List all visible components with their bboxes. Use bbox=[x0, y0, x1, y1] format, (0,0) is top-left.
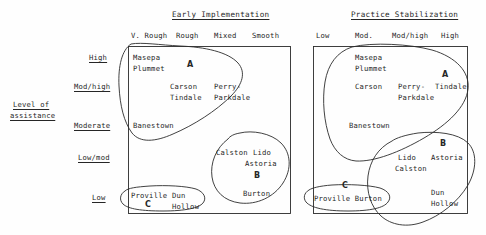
right-column-high: High bbox=[441, 31, 459, 40]
right-item-masepa: Masepa bbox=[355, 53, 382, 62]
right-item-dun: Dun bbox=[431, 188, 445, 197]
right-column-mod: Mod. bbox=[355, 31, 373, 40]
right-cluster-a-letter: A bbox=[442, 70, 448, 79]
y-axis-label-line1: Level of bbox=[13, 100, 49, 109]
right-item-calston: Calston bbox=[395, 164, 427, 173]
row-label-low-mod: Low/mod bbox=[78, 153, 110, 162]
left-panel-title: Early Implementation bbox=[172, 10, 269, 19]
row-label-high: High bbox=[89, 53, 107, 62]
left-cluster-b-letter: B bbox=[254, 171, 260, 180]
left-item-masepa: Masepa bbox=[133, 53, 160, 62]
right-item-banestown: Banestown bbox=[349, 121, 390, 130]
right-item-parkdale: Parkdale bbox=[398, 93, 434, 102]
left-item-perry: Perry- bbox=[214, 82, 241, 91]
left-item-carson: Carson bbox=[170, 82, 197, 91]
left-item-astoria: Astoria bbox=[245, 159, 277, 168]
left-item-parkdale: Parkdale bbox=[214, 93, 250, 102]
left-cluster-c-letter: C bbox=[145, 200, 151, 209]
right-item-hollow: Hollow bbox=[431, 199, 458, 208]
right-cluster-a-outline bbox=[324, 44, 469, 161]
row-label-mod-high: Mod/high bbox=[74, 82, 110, 91]
left-item-proville: Proville bbox=[131, 191, 167, 200]
row-label-low: Low bbox=[92, 193, 106, 202]
right-cluster-c-letter: C bbox=[342, 181, 348, 190]
left-item-banestown: Banestown bbox=[133, 121, 174, 130]
left-item-calston: Calston bbox=[216, 148, 248, 157]
right-panel-title: Practice Stabilization bbox=[351, 10, 458, 19]
row-label-moderate: Moderate bbox=[74, 121, 110, 130]
left-item-hollow: Hollow bbox=[172, 202, 199, 211]
right-cluster-b-letter: B bbox=[440, 139, 446, 148]
right-column-mod-high: Mod/high bbox=[392, 31, 428, 40]
left-column-v-rough: V. Rough bbox=[131, 31, 167, 40]
left-item-plummet: Plummet bbox=[133, 64, 165, 73]
right-item-perry: Perry- bbox=[398, 82, 425, 91]
right-item-proville-burton: Proville Burton bbox=[314, 194, 382, 203]
right-item-astoria: Astoria bbox=[431, 153, 463, 162]
right-item-plummet: Plummet bbox=[355, 64, 387, 73]
left-item-dun: Dun bbox=[172, 191, 186, 200]
left-column-smooth: Smooth bbox=[252, 31, 279, 40]
right-column-low: Low bbox=[316, 31, 330, 40]
left-cluster-a-letter: A bbox=[187, 60, 193, 69]
left-column-mixed: Mixed bbox=[214, 31, 237, 40]
left-item-lido: Lido bbox=[253, 148, 271, 157]
right-item-tindale: Tindale bbox=[435, 82, 467, 91]
y-axis-label-line2: assistance bbox=[10, 111, 55, 120]
left-column-rough: Rough bbox=[176, 31, 199, 40]
right-item-carson: Carson bbox=[355, 82, 382, 91]
right-cluster-b-outline bbox=[368, 132, 475, 225]
left-item-burton: Burton bbox=[243, 189, 270, 198]
left-item-tindale: Tindale bbox=[170, 93, 202, 102]
diagram-canvas: Level of assistance High Mod/high Modera… bbox=[0, 0, 486, 235]
right-item-lido: Lido bbox=[398, 153, 416, 162]
